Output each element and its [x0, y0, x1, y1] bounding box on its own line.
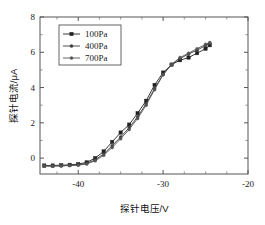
- data-point-marker: [196, 47, 199, 50]
- y-tick-label: 0: [31, 153, 36, 163]
- y-axis-title: 探针电流/μA: [8, 68, 19, 123]
- legend-marker: [70, 32, 73, 35]
- data-point-marker: [43, 165, 46, 168]
- x-axis-title: 探针电压/V: [120, 203, 170, 214]
- data-point-marker: [119, 131, 122, 134]
- y-tick-label: 2: [31, 118, 36, 128]
- data-point-marker: [60, 164, 63, 167]
- data-point-marker: [77, 164, 80, 167]
- data-point-marker: [153, 88, 156, 91]
- y-tick-label: 4: [31, 83, 36, 93]
- data-point-marker: [170, 63, 173, 66]
- data-point-marker: [111, 146, 114, 149]
- data-point-marker: [195, 51, 198, 54]
- data-point-marker: [119, 137, 122, 140]
- x-tick-label: -40: [72, 179, 84, 189]
- x-tick-label: -20: [242, 179, 254, 189]
- data-point-marker: [51, 165, 54, 168]
- data-point-marker: [85, 162, 88, 165]
- legend-label: 400Pa: [85, 41, 108, 51]
- legend-label: 100Pa: [85, 29, 108, 39]
- chart-legend[interactable]: 100Pa400Pa700Pa: [59, 25, 121, 65]
- data-point-marker: [162, 73, 165, 76]
- y-tick-label: 8: [31, 12, 36, 22]
- figure-container: -40-30-20 02468 100Pa400Pa700Pa 探针电压/V 探…: [0, 0, 265, 225]
- data-point-marker: [179, 56, 182, 59]
- data-point-marker: [204, 43, 207, 46]
- data-point-marker: [136, 117, 139, 120]
- y-tick-label: 6: [31, 47, 36, 57]
- chart-canvas: -40-30-20 02468 100Pa400Pa700Pa 探针电压/V 探…: [0, 0, 265, 225]
- data-point-marker: [208, 41, 211, 44]
- data-point-marker: [128, 128, 131, 131]
- data-point-marker: [187, 52, 190, 55]
- data-point-marker: [102, 154, 105, 157]
- data-point-marker: [110, 140, 113, 143]
- legend-marker: [70, 45, 73, 48]
- legend-label: 700Pa: [85, 53, 108, 63]
- data-point-marker: [68, 164, 71, 167]
- data-point-marker: [204, 47, 207, 50]
- legend-marker: [70, 57, 73, 60]
- data-point-marker: [145, 104, 148, 107]
- data-point-marker: [187, 56, 190, 59]
- x-tick-label: -30: [157, 179, 169, 189]
- data-point-marker: [94, 159, 97, 162]
